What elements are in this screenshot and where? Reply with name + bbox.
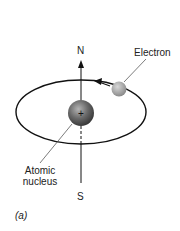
nucleus-label-line1: Atomic (18, 165, 62, 176)
atom-diagram: + (0, 0, 180, 231)
plus-icon: + (78, 108, 84, 119)
electron-direction-arrow-icon (94, 78, 102, 85)
north-label: N (77, 45, 84, 56)
nucleus-label: Atomic nucleus (18, 165, 62, 187)
electron-label: Electron (134, 47, 171, 58)
south-label: S (77, 191, 84, 202)
electron-leader-line (124, 59, 146, 82)
north-arrowhead-icon (78, 60, 84, 68)
electron (112, 82, 127, 97)
panel-label: (a) (15, 210, 27, 221)
nucleus-label-line2: nucleus (18, 176, 62, 187)
